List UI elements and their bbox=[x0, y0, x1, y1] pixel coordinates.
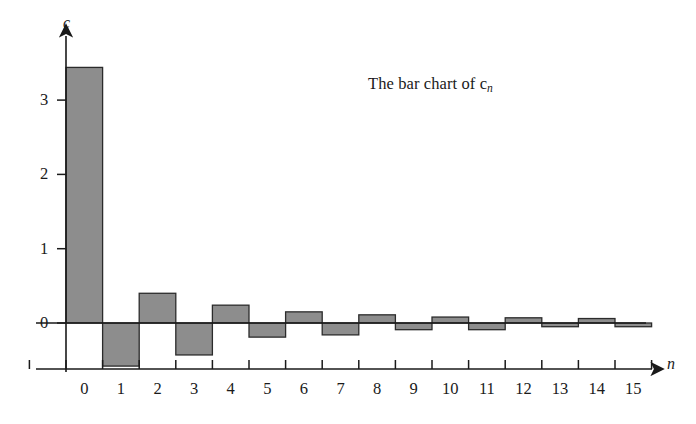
bar-n-1 bbox=[103, 323, 140, 366]
chart-canvas bbox=[0, 0, 696, 424]
bar-n-11 bbox=[469, 323, 506, 330]
bar-n-3 bbox=[176, 323, 213, 355]
y-ticks-group bbox=[57, 100, 66, 323]
bars-group bbox=[66, 67, 652, 366]
bar-n-2 bbox=[139, 293, 176, 323]
bar-chart-figure: The bar chart of cn c n 0123012345678910… bbox=[0, 0, 696, 424]
bar-n-7 bbox=[322, 323, 359, 335]
bar-n-12 bbox=[505, 318, 542, 323]
axes-group bbox=[36, 36, 652, 372]
bar-n-6 bbox=[286, 312, 323, 323]
bar-n-9 bbox=[395, 323, 432, 330]
bar-n-4 bbox=[212, 305, 249, 323]
bar-n-8 bbox=[359, 315, 396, 323]
bar-n-5 bbox=[249, 323, 286, 337]
bar-n-0 bbox=[66, 67, 103, 323]
bar-n-10 bbox=[432, 317, 469, 323]
